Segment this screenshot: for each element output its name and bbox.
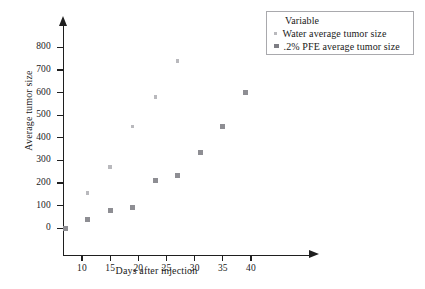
data-point-pfe xyxy=(198,150,203,155)
y-tick-mark xyxy=(57,205,64,206)
x-tick-mark xyxy=(222,256,223,262)
data-point-pfe xyxy=(220,124,225,129)
y-tick-mark xyxy=(57,137,64,138)
x-tick-mark xyxy=(250,256,251,262)
data-point-water xyxy=(154,95,157,98)
data-point-water xyxy=(86,191,89,194)
legend-title: Variable xyxy=(285,15,319,26)
data-point-water xyxy=(131,125,134,128)
x-axis-arrow-icon xyxy=(309,250,319,258)
data-point-pfe xyxy=(108,208,113,213)
legend-label-pfe: .2% PFE average tumor size xyxy=(284,41,400,52)
data-point-pfe xyxy=(175,173,180,178)
data-point-water xyxy=(176,59,179,62)
y-tick-mark xyxy=(57,160,64,161)
legend-swatch-pfe-icon xyxy=(274,44,279,49)
y-tick-label: 100 xyxy=(5,201,51,211)
legend-swatch-water-icon xyxy=(274,32,277,35)
scatter-plot-figure: 0100200300400500600700800 10152025303540… xyxy=(0,0,425,289)
legend-box: Variable Water average tumor size .2% PF… xyxy=(266,11,414,55)
y-axis-arrow-icon xyxy=(59,16,67,26)
x-axis-line xyxy=(63,255,311,256)
legend-label-water: Water average tumor size xyxy=(282,28,386,39)
data-point-pfe xyxy=(85,217,90,222)
y-axis-title: Average tumor size xyxy=(23,36,34,186)
y-tick-label: 0 xyxy=(5,223,51,233)
y-tick-mark xyxy=(57,69,64,70)
y-tick-mark xyxy=(57,47,64,48)
x-tick-mark xyxy=(166,256,167,262)
data-point-pfe xyxy=(153,178,158,183)
y-tick-mark xyxy=(57,115,64,116)
x-axis-title: Days after injection xyxy=(0,265,313,276)
x-tick-mark xyxy=(81,256,82,262)
data-point-pfe xyxy=(243,90,248,95)
x-tick-mark xyxy=(138,256,139,262)
x-tick-mark xyxy=(110,256,111,262)
y-tick-mark xyxy=(57,182,64,183)
y-tick-mark xyxy=(57,92,64,93)
y-axis-line xyxy=(63,25,64,255)
data-point-pfe xyxy=(63,226,68,231)
data-point-water xyxy=(108,165,111,168)
legend-item-pfe: .2% PFE average tumor size xyxy=(274,41,400,52)
legend-item-water: Water average tumor size xyxy=(274,28,386,39)
data-point-pfe xyxy=(130,205,135,210)
x-tick-mark xyxy=(194,256,195,262)
